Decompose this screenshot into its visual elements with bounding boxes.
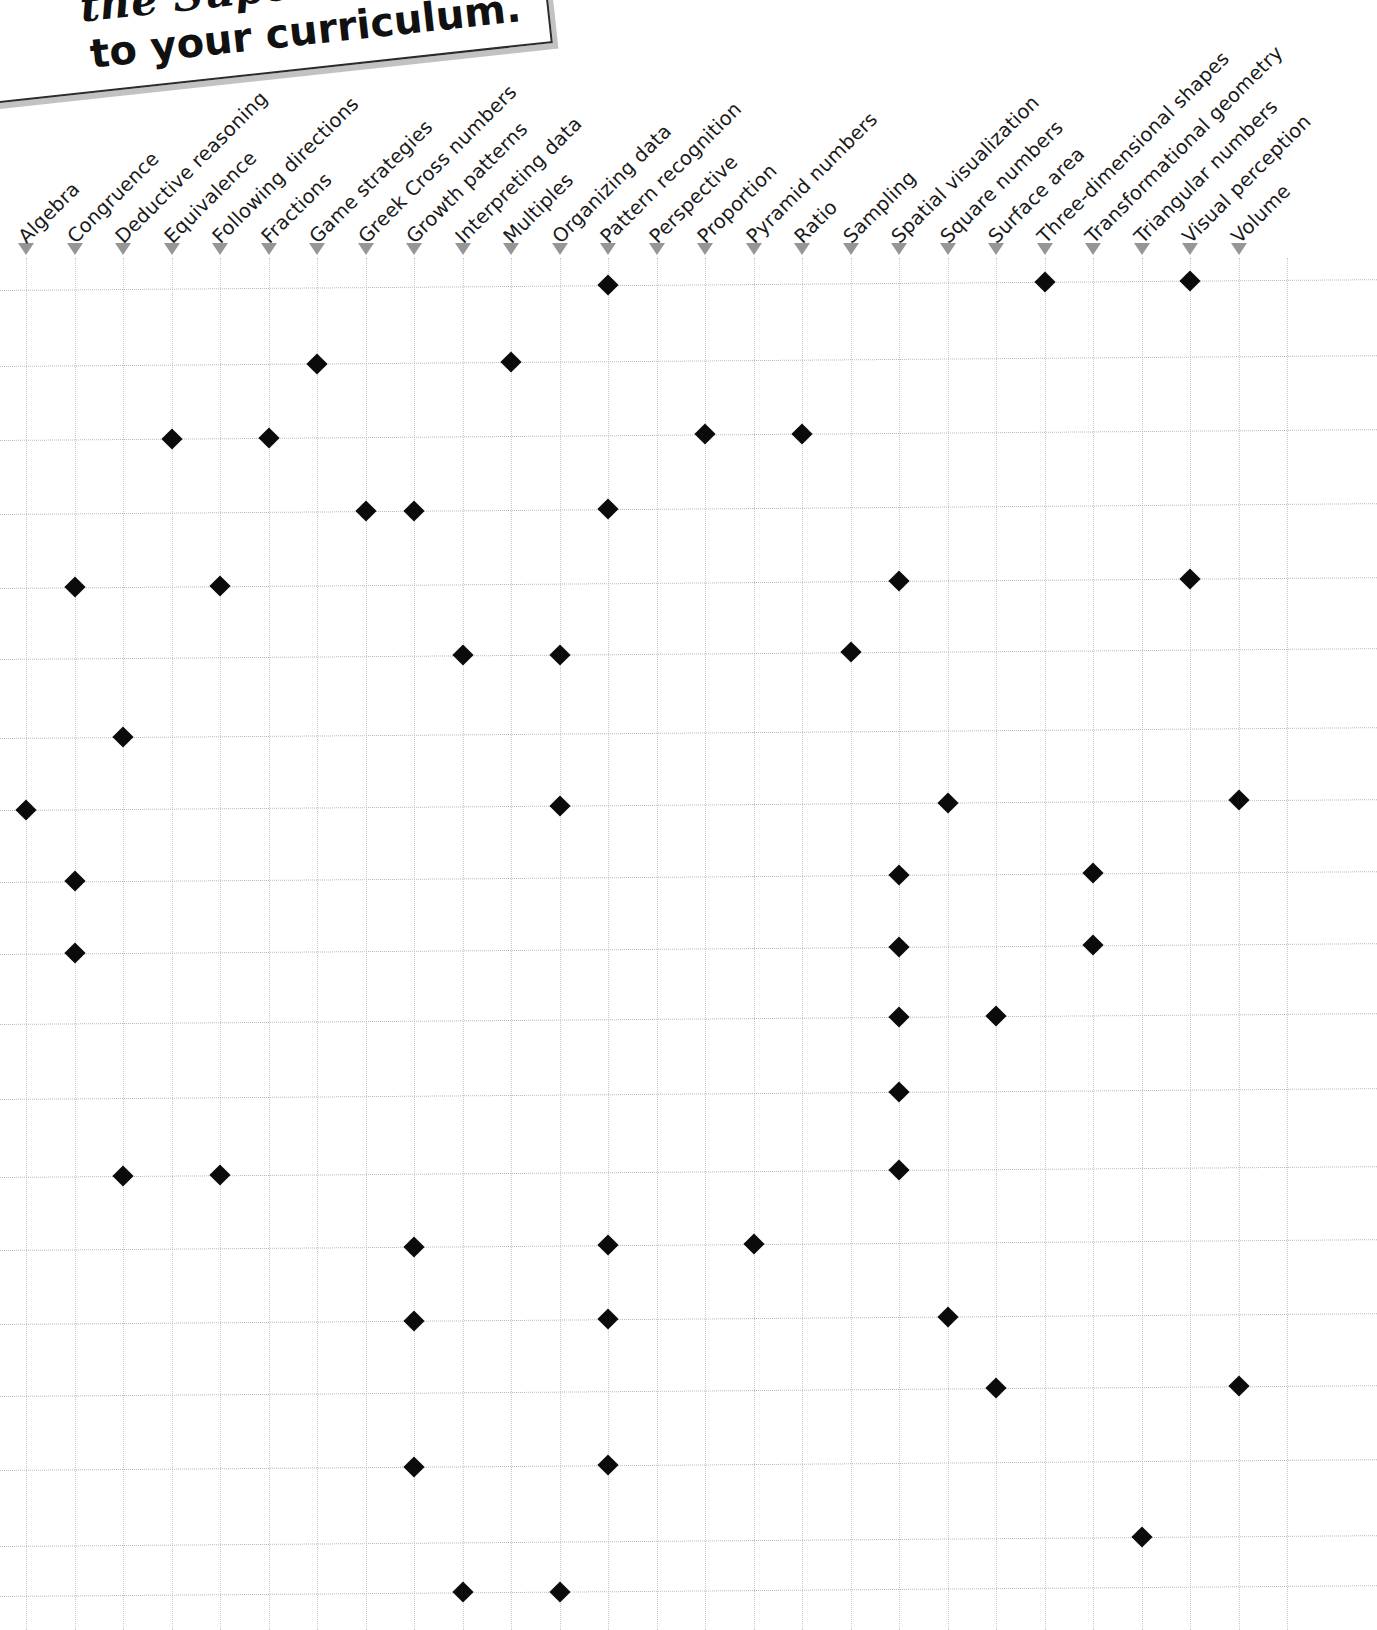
diamond-marker-icon bbox=[452, 645, 473, 666]
diamond-marker-icon bbox=[452, 1582, 473, 1603]
diamond-marker-icon bbox=[1228, 790, 1249, 811]
diamond-marker-icon bbox=[888, 864, 909, 885]
diamond-marker-icon bbox=[1082, 935, 1103, 956]
diamond-marker-icon bbox=[1179, 270, 1200, 291]
diamond-marker-icon bbox=[1131, 1526, 1152, 1547]
diamond-marker-icon bbox=[403, 1456, 424, 1477]
diamond-marker-icon bbox=[888, 936, 909, 957]
diamond-marker-icon bbox=[985, 1378, 1006, 1399]
diamond-marker-icon bbox=[549, 795, 570, 816]
diamond-marker-icon bbox=[306, 353, 327, 374]
diamond-marker-icon bbox=[840, 642, 861, 663]
diamond-marker-icon bbox=[64, 577, 85, 598]
diamond-marker-icon bbox=[937, 792, 958, 813]
diamond-marker-icon bbox=[161, 428, 182, 449]
diamond-marker-icon bbox=[937, 1306, 958, 1327]
diamond-marker-icon bbox=[985, 1006, 1006, 1027]
diamond-marker-icon bbox=[888, 1159, 909, 1180]
diamond-marker-icon bbox=[112, 726, 133, 747]
diamond-marker-icon bbox=[1034, 271, 1055, 292]
diamond-marker-icon bbox=[791, 423, 812, 444]
diamond-marker-icon bbox=[888, 1081, 909, 1102]
diamond-marker-icon bbox=[355, 501, 376, 522]
diamond-marker-icon bbox=[64, 871, 85, 892]
matrix-marker-layer bbox=[0, 0, 1377, 1630]
diamond-marker-icon bbox=[694, 424, 715, 445]
diamond-marker-icon bbox=[1082, 863, 1103, 884]
diamond-marker-icon bbox=[1179, 568, 1200, 589]
diamond-marker-icon bbox=[549, 1581, 570, 1602]
diamond-marker-icon bbox=[597, 1455, 618, 1476]
diamond-marker-icon bbox=[209, 576, 230, 597]
diamond-marker-icon bbox=[15, 799, 36, 820]
diamond-marker-icon bbox=[549, 644, 570, 665]
diamond-marker-icon bbox=[403, 500, 424, 521]
diamond-marker-icon bbox=[64, 943, 85, 964]
diamond-marker-icon bbox=[597, 499, 618, 520]
diamond-marker-icon bbox=[743, 1233, 764, 1254]
diamond-marker-icon bbox=[597, 1309, 618, 1330]
diamond-marker-icon bbox=[258, 427, 279, 448]
diamond-marker-icon bbox=[1228, 1376, 1249, 1397]
diamond-marker-icon bbox=[597, 1235, 618, 1256]
diamond-marker-icon bbox=[403, 1310, 424, 1331]
diamond-marker-icon bbox=[112, 1165, 133, 1186]
diamond-marker-icon bbox=[403, 1236, 424, 1257]
diamond-marker-icon bbox=[888, 570, 909, 591]
diamond-marker-icon bbox=[888, 1006, 909, 1027]
diamond-marker-icon bbox=[209, 1165, 230, 1186]
diamond-marker-icon bbox=[500, 351, 521, 372]
diamond-marker-icon bbox=[597, 275, 618, 296]
